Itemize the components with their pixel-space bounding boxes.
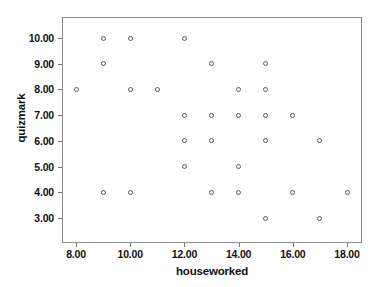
x-axis-tick — [130, 243, 131, 247]
y-axis-tick — [58, 115, 62, 116]
x-axis-tick-label: 12.00 — [161, 249, 207, 260]
scatter-chart: quizmark houseworked 3.004.005.006.007.0… — [0, 0, 378, 287]
y-axis-tick-label: 4.00 — [4, 187, 54, 197]
y-axis-tick — [58, 218, 62, 219]
x-axis-tick — [76, 243, 77, 247]
y-axis-tick — [58, 89, 62, 90]
x-axis-tick — [347, 243, 348, 247]
x-axis-tick-label: 16.00 — [270, 249, 316, 260]
x-axis-tick — [239, 243, 240, 247]
y-axis-tick — [58, 167, 62, 168]
y-axis-tick-label: 6.00 — [4, 136, 54, 146]
x-axis-tick-label: 10.00 — [107, 249, 153, 260]
y-axis-tick — [58, 141, 62, 142]
y-axis-tick-label: 7.00 — [4, 110, 54, 120]
x-axis-tick-label: 14.00 — [216, 249, 262, 260]
y-axis-tick-label: 3.00 — [4, 213, 54, 223]
y-axis-tick-label: 8.00 — [4, 84, 54, 94]
plot-frame — [62, 17, 362, 243]
x-axis-tick-label: 18.00 — [324, 249, 370, 260]
x-axis-title: houseworked — [62, 265, 362, 277]
y-axis-tick — [58, 192, 62, 193]
y-axis-tick-label: 5.00 — [4, 162, 54, 172]
y-axis-tick-label: 10.00 — [4, 33, 54, 43]
y-axis-tick-label: 9.00 — [4, 59, 54, 69]
x-axis-tick — [184, 243, 185, 247]
y-axis-tick — [58, 38, 62, 39]
y-axis-tick — [58, 64, 62, 65]
x-axis-tick-label: 8.00 — [53, 249, 99, 260]
x-axis-tick — [293, 243, 294, 247]
